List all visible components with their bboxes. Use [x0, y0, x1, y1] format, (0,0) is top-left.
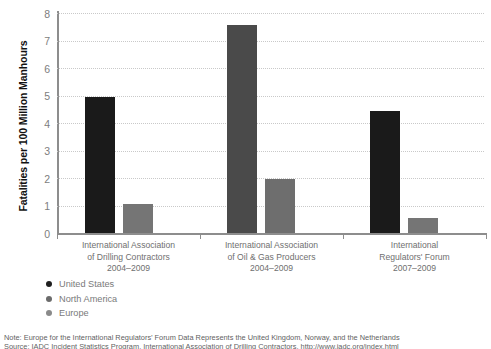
chart-figure: Fatalities per 100 Million Manhours 8 7 …	[0, 0, 491, 349]
x-group-label-line: of Oil & Gas Producers	[200, 252, 343, 264]
gridline	[57, 68, 484, 69]
gridline	[57, 96, 484, 97]
x-axis-separator	[57, 233, 58, 239]
x-axis-separator	[486, 233, 487, 239]
gridline	[57, 151, 484, 152]
y-tick-label-5: 5	[34, 90, 50, 102]
gridline	[57, 41, 484, 42]
bar-united-states-group-2	[370, 111, 400, 233]
gridline	[57, 123, 484, 124]
note-text: Note: Europe for the International Regul…	[4, 333, 491, 342]
legend-label: North America	[59, 294, 117, 304]
x-axis-separator	[200, 233, 201, 239]
x-group-label-line: of Drilling Contractors	[57, 252, 200, 264]
source-text: Source: IADC Incident Statistics Program…	[4, 342, 491, 349]
legend-label: Europe	[59, 308, 89, 318]
x-group-label-1: International Association of Oil & Gas P…	[200, 240, 343, 275]
x-group-label-0: International Association of Drilling Co…	[57, 240, 200, 275]
y-tick-label-6: 6	[34, 63, 50, 75]
x-group-label-line: 2007–2009	[343, 263, 486, 275]
x-group-label-line: International Association	[57, 240, 200, 252]
x-axis-separator	[343, 233, 344, 239]
chart-legend: United StatesNorth AmericaEurope	[46, 277, 117, 321]
y-tick-label-1: 1	[34, 200, 50, 212]
x-group-label-line: Regulators' Forum	[343, 252, 486, 264]
x-group-label-line: International Association	[200, 240, 343, 252]
y-tick-label-7: 7	[34, 35, 50, 47]
x-group-label-line: 2004–2009	[200, 263, 343, 275]
x-axis-line	[57, 233, 487, 235]
legend-item-united-states: United States	[46, 277, 117, 292]
bar-united-states-group-0	[85, 97, 115, 233]
x-group-label-line: International	[343, 240, 486, 252]
bar-europe-group-2	[408, 218, 438, 233]
y-tick-label-0: 0	[34, 228, 50, 240]
bar-europe-group-0	[123, 204, 153, 233]
bar-europe-group-1	[265, 179, 295, 233]
x-group-label-line: 2004–2009	[57, 263, 200, 275]
legend-label: United States	[59, 279, 114, 289]
legend-item-north-america: North America	[46, 292, 117, 307]
legend-swatch-icon	[46, 296, 52, 302]
legend-swatch-icon	[46, 310, 52, 316]
y-tick-label-3: 3	[34, 145, 50, 157]
gridline	[57, 13, 484, 14]
y-axis-title: Fatalities per 100 Million Manhours	[17, 11, 29, 241]
legend-item-europe: Europe	[46, 306, 117, 321]
plot-area	[57, 13, 484, 233]
bar-north-america-group-1	[227, 25, 257, 233]
y-tick-label-8: 8	[34, 8, 50, 20]
x-group-label-2: International Regulators' Forum 2007–200…	[343, 240, 486, 275]
y-tick-label-4: 4	[34, 118, 50, 130]
legend-swatch-icon	[46, 281, 52, 287]
chart-notes: Note: Europe for the International Regul…	[4, 333, 491, 349]
y-tick-label-2: 2	[34, 173, 50, 185]
